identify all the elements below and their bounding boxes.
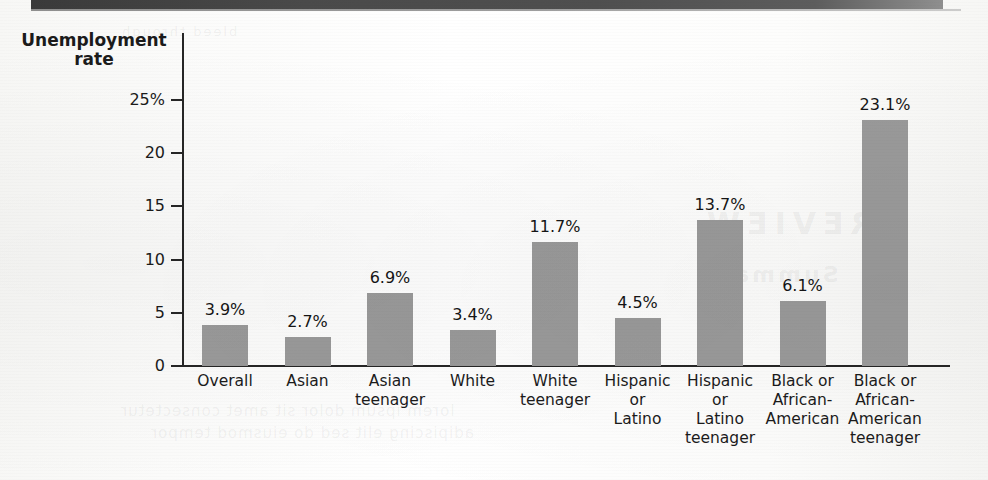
bar-value-label: 4.5% [583,293,693,312]
y-axis-tick [171,259,184,261]
y-axis-tick-label: 25% [105,90,165,109]
y-axis-tick [171,205,184,207]
bar[interactable] [697,220,743,366]
x-axis-label-line: teenager [685,429,755,447]
y-axis-tick-label: 5 [105,303,165,322]
y-axis-tick [171,152,184,154]
x-axis-label-line: Asian [286,372,328,390]
x-axis-label-line: teenager [850,429,920,447]
x-axis-label-line: Hispanic [604,372,670,390]
bar-value-label: 6.9% [335,268,445,287]
x-axis-label-line: or [630,391,646,409]
bar[interactable] [450,330,496,366]
x-axis-label-line: African- [855,391,915,409]
y-axis-tick-label: 0 [105,356,165,375]
bar[interactable] [780,301,826,366]
y-axis-tick-label: 15 [105,196,165,215]
bar[interactable] [367,293,413,366]
bar-value-label: 2.7% [253,312,363,331]
plot-area: 25%201510503.9%Overall2.7%Asian6.9%Asian… [0,0,988,480]
x-axis-label-line: Asian [369,372,411,390]
x-axis-label-line: teenager [520,391,590,409]
y-axis-tick-label: 20 [105,143,165,162]
x-axis-label-line: American [848,410,922,428]
bar[interactable] [615,318,661,366]
bar[interactable] [532,242,578,366]
x-axis-label-line: White [450,372,495,390]
bar-value-label: 13.7% [665,195,775,214]
y-axis-tick [171,365,184,367]
x-axis-category-label: Black orAfrican-Americanteenager [837,372,933,448]
chart-page: REVIEW Summary lorem ipsum dolor sit ame… [0,0,988,480]
bar-value-label: 6.1% [748,276,858,295]
x-axis-label-line: Black or [854,372,917,390]
bar-value-label: 11.7% [500,217,610,236]
y-axis-tick-label: 10 [105,250,165,269]
y-axis-tick [171,99,184,101]
bar-value-label: 23.1% [830,95,940,114]
x-axis-label-line: Latino [614,410,662,428]
x-axis-label-line: American [766,410,840,428]
x-axis-label-line: teenager [355,391,425,409]
x-axis-label-line: Latino [696,410,744,428]
bar[interactable] [285,337,331,366]
x-axis-label-line: Overall [197,372,252,390]
x-axis-label-line: Black or [771,372,834,390]
x-axis-label-line: or [712,391,728,409]
bar[interactable] [862,120,908,366]
bar[interactable] [202,325,248,366]
x-axis-label-line: African- [773,391,833,409]
x-axis-label-line: White [532,372,577,390]
bar-value-label: 3.4% [418,305,528,324]
x-axis-label-line: Hispanic [687,372,753,390]
